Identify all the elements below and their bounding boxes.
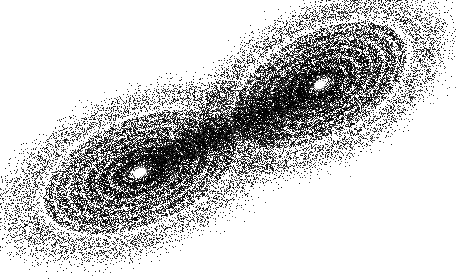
attractor-point-cloud	[0, 0, 456, 279]
attractor-image	[0, 0, 456, 279]
